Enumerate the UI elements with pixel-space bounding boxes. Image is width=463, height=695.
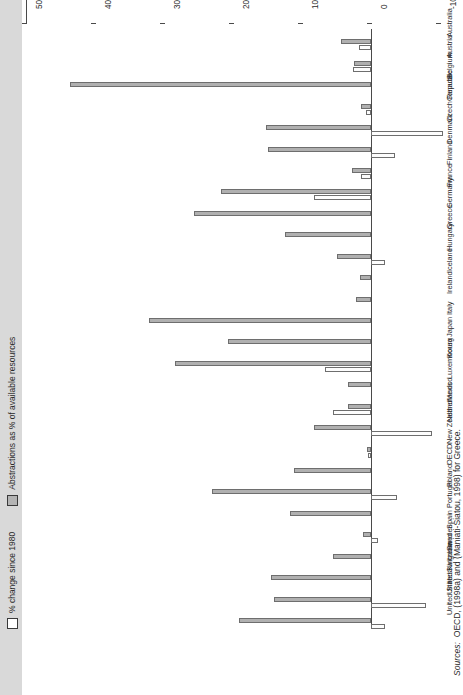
axis-tick-label: 10 [311, 0, 320, 9]
axis-tick-label: 0 [380, 4, 389, 9]
axis-tick [160, 23, 165, 24]
axis-tick-label: -10 [449, 0, 458, 9]
axis-tick [229, 23, 234, 24]
axis-tick [367, 23, 372, 24]
axis-tick-label: 50 [35, 0, 44, 9]
axis-tick [436, 23, 441, 24]
sources-caption: Sources: OECD, (1998a) and (Maniati-Siat… [452, 429, 462, 676]
axis-tick [22, 23, 27, 24]
axis-tick [298, 23, 303, 24]
axis-tick-label: 30 [173, 0, 182, 9]
chart-figure: % change since 1980 Abstractions as % of… [0, 0, 463, 695]
sources-text: OECD, (1998a) and (Maniati-Siatou, 1998)… [452, 429, 462, 637]
sources-label: Sources: [452, 642, 462, 676]
value-axis-line [26, 0, 27, 23]
axis-tick-label: 40 [104, 0, 113, 9]
value-axis-labels: -1001020304050 [0, 0, 463, 695]
axis-tick [91, 23, 96, 24]
axis-tick-label: 20 [242, 0, 251, 9]
